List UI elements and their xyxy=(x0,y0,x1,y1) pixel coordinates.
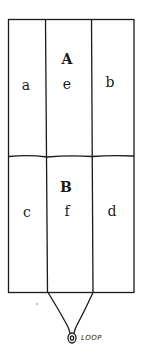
loop-label: LOOP xyxy=(81,334,102,342)
loop-ring-outer xyxy=(68,333,76,343)
horizontal-divider xyxy=(9,156,135,157)
cell-label-c: c xyxy=(23,205,31,219)
cell-label-b: b xyxy=(106,75,115,89)
cell-label-e: e xyxy=(63,77,71,91)
vertical-divider-left xyxy=(46,20,48,293)
cell-label-a: a xyxy=(22,78,30,92)
section-label-b: B xyxy=(60,180,72,194)
loop-string-left xyxy=(48,293,70,335)
loop-string-right xyxy=(74,293,93,335)
stray-dot xyxy=(36,303,37,304)
cell-label-f: f xyxy=(64,204,69,218)
loop-ring-inner xyxy=(70,336,73,340)
cell-label-d: d xyxy=(108,204,117,218)
section-label-a: A xyxy=(62,52,73,66)
